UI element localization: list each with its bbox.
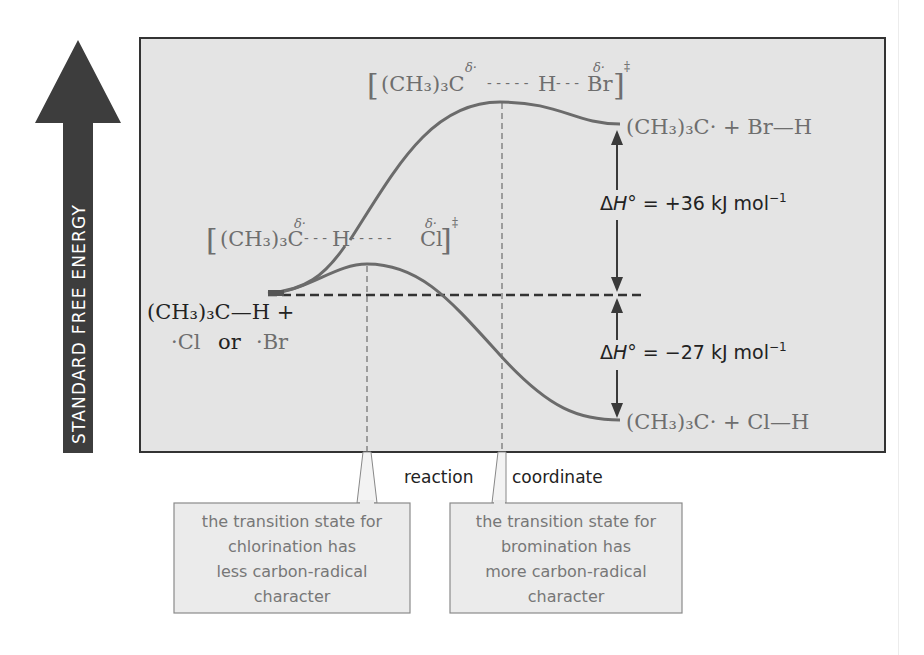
cl-products: (CH₃)₃C· + Cl—H bbox=[626, 410, 809, 434]
svg-text:- - -: - - - bbox=[556, 75, 579, 91]
svg-text:- - -: - - - bbox=[304, 230, 327, 246]
br-products: (CH₃)₃C· + Br—H bbox=[626, 115, 812, 139]
reactant-cl-radical: ·Cl bbox=[171, 330, 201, 354]
reactant-br-radical: ·Br bbox=[256, 330, 289, 354]
delta-h-cl-label: ΔH° = −27 kJ mol−1 bbox=[600, 340, 787, 363]
br-callout-line1: the transition state for bbox=[476, 512, 657, 531]
svg-text:Br: Br bbox=[587, 72, 613, 96]
br-callout-line4: character bbox=[528, 587, 605, 606]
br-callout-pointer bbox=[492, 452, 506, 503]
y-axis-label: STANDARD FREE ENERGY bbox=[69, 204, 89, 444]
free-energy-axis-arrow: STANDARD FREE ENERGY bbox=[35, 40, 121, 453]
svg-text:(CH₃)₃C: (CH₃)₃C bbox=[220, 227, 304, 251]
reactant-or: or bbox=[218, 330, 242, 354]
svg-text:‡: ‡ bbox=[624, 60, 630, 74]
cl-callout-line4: character bbox=[254, 587, 331, 606]
cl-callout-line3: less carbon-radical bbox=[216, 562, 367, 581]
cl-callout-line1: the transition state for bbox=[202, 512, 383, 531]
svg-text:(CH₃)₃C: (CH₃)₃C bbox=[381, 72, 465, 96]
delta-h-br-label: ΔH° = +36 kJ mol−1 bbox=[600, 191, 787, 214]
svg-text:H: H bbox=[332, 227, 350, 251]
cl-callout-line2: chlorination has bbox=[228, 537, 356, 556]
svg-text:δ·: δ· bbox=[294, 216, 306, 231]
svg-text:[: [ bbox=[206, 222, 218, 257]
svg-text:[: [ bbox=[367, 67, 379, 102]
start-point-marker bbox=[268, 290, 284, 296]
x-axis-label-reaction: reaction bbox=[404, 467, 473, 487]
br-callout-line2: bromination has bbox=[501, 537, 631, 556]
svg-text:]: ] bbox=[613, 67, 625, 102]
svg-text:- - - - -: - - - - - bbox=[487, 75, 529, 91]
br-callout-line3: more carbon-radical bbox=[485, 562, 647, 581]
svg-text:‡: ‡ bbox=[452, 216, 458, 230]
svg-text:δ·: δ· bbox=[465, 60, 477, 75]
x-axis-label-coordinate: coordinate bbox=[512, 467, 603, 487]
svg-text:H: H bbox=[538, 72, 556, 96]
svg-text:]: ] bbox=[440, 222, 452, 257]
svg-text:- - - - -: - - - - - bbox=[350, 230, 392, 246]
cl-callout-pointer bbox=[357, 452, 377, 503]
energy-diagram: STANDARD FREE ENERGY bbox=[0, 0, 924, 655]
reactant-alkane: (CH₃)₃C—H + bbox=[147, 300, 294, 324]
